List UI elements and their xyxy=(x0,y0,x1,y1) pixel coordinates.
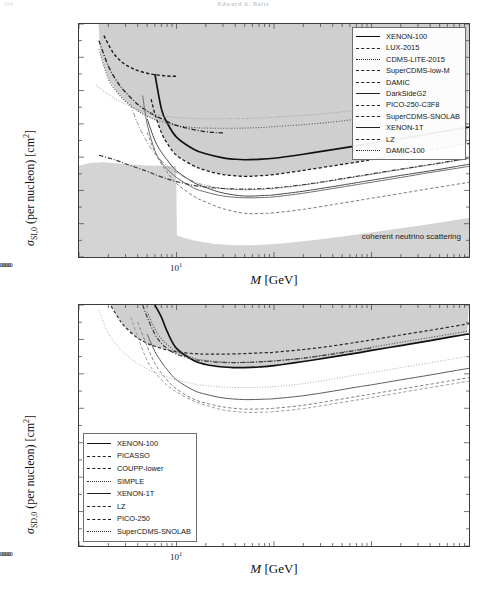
legend-item[interactable]: XENON-100 xyxy=(356,31,460,42)
legend-item[interactable]: XENON-1T xyxy=(356,122,460,133)
legend-swatch-dotted xyxy=(356,150,380,151)
legend-label: CDMS-LITE-2015 xyxy=(386,56,445,63)
legend-label: XENON-100 xyxy=(386,33,427,40)
legend-item[interactable]: DarkSideG2 xyxy=(356,88,460,99)
x-tick-label: 1010000 xyxy=(0,550,13,562)
legend-item[interactable]: LUX-2015 xyxy=(356,42,460,53)
legend-swatch-dashed xyxy=(356,48,380,49)
panel-spin-independent: σSI,0 (per nucleon) [cm2] coherent neutr… xyxy=(0,14,487,302)
legend-item[interactable]: LZ xyxy=(87,500,191,513)
legend-swatch-dashdot xyxy=(356,105,380,106)
legend-label: DAMIC-100 xyxy=(386,147,425,154)
legend-si: XENON-100LUX-2015CDMS-LITE-2015SuperCDMS… xyxy=(352,27,466,160)
legend-swatch-dotted xyxy=(87,531,111,532)
legend-label: DarkSideG2 xyxy=(386,90,426,97)
legend-item[interactable]: PICO-250-C3F8 xyxy=(356,99,460,110)
legend-item[interactable]: SuperCDMS-low-M xyxy=(356,65,460,76)
legend-swatch-dashdot xyxy=(87,468,111,469)
legend-item[interactable]: PICASSO xyxy=(87,450,191,463)
legend-item[interactable]: PICO-250 xyxy=(87,513,191,526)
coherent-neutrino-scattering-label: coherent neutrino scattering xyxy=(362,232,461,241)
legend-swatch-solid xyxy=(356,127,380,128)
legend-label: SIMPLE xyxy=(117,478,144,485)
legend-label: LZ xyxy=(386,136,395,143)
legend-item[interactable]: COUPP-lower xyxy=(87,462,191,475)
legend-swatch-dashed xyxy=(356,139,380,140)
legend-swatch-dashed xyxy=(356,82,380,83)
legend-swatch-dashdot xyxy=(356,116,380,117)
plot-area-sd: XENON-100PICASSOCOUPP-lowerSIMPLEXENON-1… xyxy=(78,304,470,547)
legend-label: SuperCDMS-SNOLAB xyxy=(386,113,460,120)
legend-item[interactable]: LZ xyxy=(356,134,460,145)
legend-label: PICO-250 xyxy=(117,515,150,522)
x-axis-title-sd: M [GeV] xyxy=(78,561,470,577)
legend-label: COUPP-lower xyxy=(117,465,163,472)
legend-label: LUX-2015 xyxy=(386,44,419,51)
legend-label: SuperCDMS-SNOLAB xyxy=(117,528,191,535)
legend-item[interactable]: XENON-100 xyxy=(87,437,191,450)
legend-label: XENON-100 xyxy=(117,440,158,447)
running-header: Edward A. Baltz xyxy=(0,1,487,7)
legend-item[interactable]: XENON-1T xyxy=(87,488,191,501)
legend-swatch-solid xyxy=(87,493,111,494)
legend-swatch-solid xyxy=(356,36,380,37)
legend-item[interactable]: DAMIC-100 xyxy=(356,145,460,156)
legend-label: LZ xyxy=(117,503,126,510)
legend-swatch-dashed xyxy=(87,506,111,507)
legend-item[interactable]: SuperCDMS-SNOLAB xyxy=(87,525,191,538)
x-axis-title-si: M [GeV] xyxy=(78,272,470,288)
y-axis-title-si: σSI,0 (per nucleon) [cm2] xyxy=(22,130,39,246)
legend-label: XENON-1T xyxy=(117,490,154,497)
legend-label: SuperCDMS-low-M xyxy=(386,67,450,74)
legend-swatch-solid xyxy=(356,93,380,94)
figure-page: 344 Edward A. Baltz σSI,0 (per nucleon) … xyxy=(0,0,487,601)
y-axis-title-sd: σSD,0 (per nucleon) [cm2] xyxy=(22,415,39,534)
legend-swatch-dashdot xyxy=(356,70,380,71)
legend-swatch-dotted xyxy=(87,481,111,482)
panel-spin-dependent: σSD,0 (per nucleon) [cm2] XENON-100PICAS… xyxy=(0,296,487,596)
legend-sd: XENON-100PICASSOCOUPP-lowerSIMPLEXENON-1… xyxy=(83,433,197,542)
legend-item[interactable]: CDMS-LITE-2015 xyxy=(356,54,460,65)
plot-area-si: coherent neutrino scattering XENON-100LU… xyxy=(78,23,470,258)
legend-item[interactable]: SIMPLE xyxy=(87,475,191,488)
legend-label: XENON-1T xyxy=(386,124,423,131)
legend-item[interactable]: SuperCDMS-SNOLAB xyxy=(356,111,460,122)
legend-swatch-dotted xyxy=(356,59,380,60)
legend-item[interactable]: DAMIC xyxy=(356,77,460,88)
legend-label: DAMIC xyxy=(386,79,410,86)
legend-swatch-dashed xyxy=(87,456,111,457)
legend-label: PICO-250-C3F8 xyxy=(386,101,439,108)
legend-label: PICASSO xyxy=(117,452,150,459)
x-tick-label: 1010000 xyxy=(0,261,13,273)
legend-swatch-dashed xyxy=(87,519,111,520)
legend-swatch-solid xyxy=(87,443,111,444)
